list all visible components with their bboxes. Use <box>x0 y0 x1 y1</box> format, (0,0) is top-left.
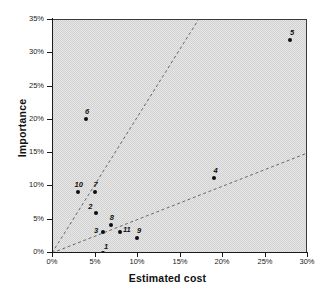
upper-ratio-line <box>52 20 198 252</box>
data-point-label-2: 2 <box>88 203 92 211</box>
data-point-label-8: 8 <box>110 214 114 222</box>
data-point-label-6: 6 <box>85 108 89 116</box>
x-tick-label: 15% <box>165 258 195 266</box>
y-tick-label: 30% <box>29 48 44 56</box>
y-tick-label: 10% <box>29 181 44 189</box>
data-point-label-1: 1 <box>104 243 108 251</box>
y-tick-mark <box>47 86 52 87</box>
y-axis-line <box>52 18 53 253</box>
x-tick-label: 20% <box>207 258 237 266</box>
x-tick-label: 0% <box>37 258 67 266</box>
x-tick-label: 10% <box>122 258 152 266</box>
y-tick-mark <box>47 152 52 153</box>
data-point-label-5: 5 <box>290 29 294 37</box>
y-tick-label: 20% <box>29 115 44 123</box>
x-axis-title: Estimated cost <box>0 272 335 284</box>
data-point-label-3: 3 <box>94 227 98 235</box>
y-tick-label: 5% <box>33 215 44 223</box>
data-point-label-11: 11 <box>123 226 131 234</box>
data-point-5[interactable] <box>288 38 292 42</box>
data-point-label-10: 10 <box>75 181 83 189</box>
plot-area: 1234567891011 <box>52 19 307 252</box>
trend-lines-layer <box>52 20 307 252</box>
data-point-8[interactable] <box>109 223 113 227</box>
y-tick-mark <box>47 52 52 53</box>
y-tick-mark <box>47 185 52 186</box>
y-tick-mark <box>47 19 52 20</box>
y-tick-mark <box>47 219 52 220</box>
y-axis-title: Importance <box>16 58 28 198</box>
data-point-label-9: 9 <box>137 227 141 235</box>
x-tick-label: 25% <box>250 258 280 266</box>
data-point-label-7: 7 <box>94 181 98 189</box>
x-tick-label: 5% <box>80 258 110 266</box>
y-tick-label: 35% <box>29 15 44 23</box>
y-tick-label: 0% <box>33 248 44 256</box>
y-tick-label: 25% <box>29 82 44 90</box>
x-tick-label: 30% <box>292 258 322 266</box>
data-point-label-4: 4 <box>214 167 218 175</box>
y-tick-label: 15% <box>29 148 44 156</box>
y-tick-mark <box>47 119 52 120</box>
scatter-chart: 1234567891011 0%5%10%15%20%25%30%35% 0%5… <box>0 0 335 292</box>
